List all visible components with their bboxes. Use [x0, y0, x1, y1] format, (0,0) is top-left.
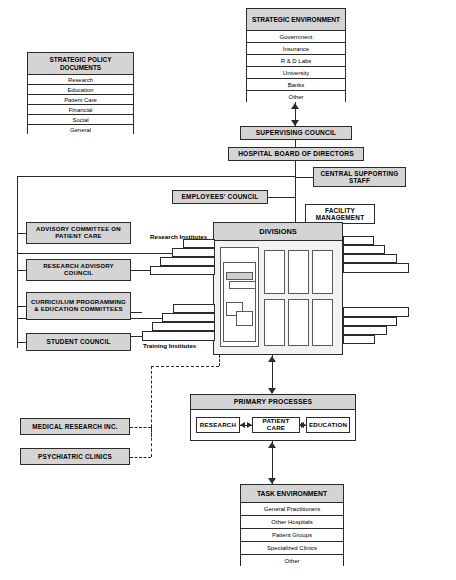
division-layer-right — [343, 317, 397, 326]
strategic-environment-row: Insurance — [247, 43, 345, 55]
research-institute-layer — [160, 257, 215, 266]
training-institute-layer — [142, 331, 215, 341]
task-environment-table: TASK ENVIRONMENT General Practitioners O… — [240, 484, 344, 566]
process-patient-care-box[interactable]: PATIENT CARE — [252, 417, 300, 433]
psychiatric-clinics-box[interactable]: PSYCHIATRIC CLINICS — [20, 448, 130, 465]
strategic-policy-row: Financial — [28, 105, 133, 115]
division-unit — [264, 299, 285, 346]
medical-research-box[interactable]: MEDICAL RESEARCH INC. — [20, 418, 130, 435]
connector-curriculum-to-training — [131, 312, 142, 313]
dashed-connector-vertical-lower — [151, 427, 152, 457]
connector-trunk-to-advisory-committee — [17, 233, 26, 234]
arrow-up-divisions — [268, 356, 276, 362]
connector-research-advisory-to-institutes — [131, 270, 150, 271]
division-layer-right — [343, 335, 375, 344]
arrow-up-strategic — [291, 103, 299, 109]
connector-left-trunk-to-research-institutes — [17, 253, 172, 254]
divisions-inner-small-b — [236, 311, 253, 326]
division-layer-right — [343, 263, 409, 273]
dashed-connector-to-divisions — [151, 366, 219, 367]
connector-student-council-to-training — [131, 336, 142, 337]
dashed-connector-medical-research — [130, 427, 151, 428]
connector-trunk-to-central-staff — [295, 177, 313, 178]
strategic-environment-table: STRATEGIC ENVIRONMENT Government Insuran… — [246, 8, 346, 102]
divisions-inner-highlight — [226, 272, 253, 280]
process-education-box[interactable]: EDUCATION — [306, 417, 350, 433]
division-layer-right — [343, 254, 397, 263]
strategic-policy-row: Patient Care — [28, 95, 133, 105]
task-environment-row: Other Hospitals — [241, 516, 343, 529]
arrow-right-patientcare — [247, 422, 252, 428]
dashed-connector-psychiatric-clinics — [130, 457, 151, 458]
arrow-right-education — [301, 422, 306, 428]
advisory-committee-box[interactable]: ADVISORY COMMITTEE ON PATIENT CARE — [26, 222, 131, 244]
training-institute-layer — [162, 313, 215, 322]
student-council-box[interactable]: STUDENT COUNCIL — [26, 333, 131, 351]
division-layer-right — [343, 236, 374, 245]
strategic-policy-row: General — [28, 125, 133, 134]
process-research-box[interactable]: RESEARCH — [196, 417, 240, 433]
divisions-header-bar: DIVISIONS — [213, 222, 343, 241]
strategic-policy-row: Research — [28, 75, 133, 85]
training-institutes-caption: Training Institutes — [143, 342, 196, 349]
arrow-up-primary-task — [268, 442, 276, 448]
strategic-environment-row: Other — [247, 91, 345, 102]
research-institutes-caption: Research Institutes — [150, 233, 207, 240]
strategic-policy-header: STRATEGIC POLICY DOCUMENTS — [28, 53, 133, 75]
division-unit — [288, 299, 309, 346]
task-environment-row: Patient Groups — [241, 529, 343, 542]
central-supporting-staff-box[interactable]: CENTRAL SUPPORTING STAFF — [313, 167, 406, 187]
left-trunk — [17, 176, 18, 348]
strategic-policy-row: Education — [28, 85, 133, 95]
divisions-inner-bar — [229, 281, 256, 289]
primary-processes-header: PRIMARY PROCESSES — [191, 395, 355, 409]
research-advisory-council-box[interactable]: RESEARCH ADVISORY COUNCIL — [26, 259, 131, 281]
connector-employees-to-trunk — [268, 197, 295, 198]
primary-processes-header-rule — [191, 409, 355, 410]
strategic-environment-row: Government — [247, 31, 345, 43]
task-environment-row: Specialized Clinics — [241, 542, 343, 555]
connector-supervising-to-board — [295, 140, 296, 147]
hospital-board-box[interactable]: HOSPITAL BOARD OF DIRECTORS — [228, 147, 364, 161]
division-unit — [312, 250, 333, 294]
division-unit — [312, 299, 333, 346]
diagram-canvas: STRATEGIC ENVIRONMENT Government Insuran… — [0, 0, 456, 580]
dashed-connector-up-to-divisions — [219, 355, 220, 366]
training-institute-layer — [152, 322, 215, 331]
strategic-environment-header: STRATEGIC ENVIRONMENT — [247, 9, 345, 31]
task-environment-header: TASK ENVIRONMENT — [241, 485, 343, 503]
division-unit — [264, 250, 285, 294]
strategic-environment-row: University — [247, 67, 345, 79]
division-layer-right — [343, 307, 409, 317]
task-environment-row: Other — [241, 555, 343, 566]
connector-trunk-to-student-council — [17, 342, 26, 343]
strategic-policy-table: STRATEGIC POLICY DOCUMENTS Research Educ… — [27, 52, 134, 134]
strategic-environment-row: Banks — [247, 79, 345, 91]
arrow-left-research — [240, 422, 245, 428]
supervising-council-box[interactable]: SUPERVISING COUNCIL — [240, 126, 352, 140]
curriculum-committees-box[interactable]: CURRICULUM PROGRAMMING & EDUCATION COMMI… — [26, 292, 131, 320]
division-layer-right — [343, 245, 385, 254]
research-institute-layer — [150, 266, 215, 275]
strategic-environment-row: R & D Labs — [247, 55, 345, 67]
training-institute-layer — [173, 304, 215, 313]
connector-trunk-to-research-advisory — [17, 270, 26, 271]
division-unit — [288, 250, 309, 294]
connector-trunk-to-curriculum — [17, 306, 26, 307]
strategic-policy-row: Social — [28, 115, 133, 125]
employees-council-box[interactable]: EMPLOYEES' COUNCIL — [172, 190, 268, 204]
task-environment-row: General Practitioners — [241, 503, 343, 516]
research-institute-layer — [172, 248, 215, 257]
facility-management-box[interactable]: FACILITY MANAGEMENT — [305, 204, 375, 224]
division-layer-right — [343, 326, 387, 335]
research-institute-layer — [183, 239, 215, 248]
branch-board-to-left-trunk — [17, 176, 295, 177]
